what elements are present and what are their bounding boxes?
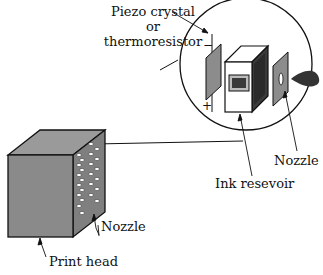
plus-sign: + [202,99,212,114]
piezo-label: Piezo crystal or thermoresistor [98,4,208,49]
inkjet-diagram: Piezo crystal or thermoresistor − + Nozz… [0,0,323,275]
minus-sign: − [203,38,213,53]
piezo-label-line3: thermoresistor [98,34,208,49]
nozzle-head-label: Nozzle [101,219,146,234]
zoom-line-lower [95,141,243,144]
print-head-label: Print head [49,254,118,269]
ink-reservoir-box [225,46,268,112]
ink-reservoir-label: Ink resevoir [215,176,294,191]
piezo-label-line2: or [98,19,208,34]
zoom-line-upper [160,60,178,70]
nozzle-inset-label: Nozzle [274,153,319,168]
piezo-label-line1: Piezo crystal [98,4,208,19]
